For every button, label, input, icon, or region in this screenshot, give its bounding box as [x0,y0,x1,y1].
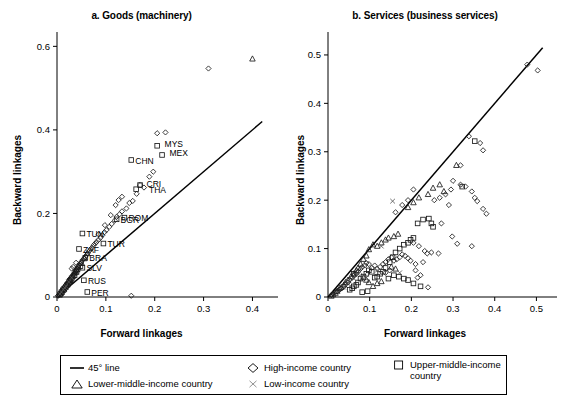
data-point-diamond [480,148,485,153]
data-point-diamond [124,206,129,211]
country-label: PER [91,288,108,298]
data-point-diamond [480,206,485,211]
country-label: ROM [128,213,148,223]
legend-label-upper-middle-income: Upper-middle-income country [410,359,510,381]
y-tick-label: 0.1 [308,243,321,254]
country-label: TUN [86,229,103,239]
country-label: MEX [169,148,188,158]
x-tick-label: 0.5 [530,303,543,314]
panel-a-x-axis-title: Forward linkages [0,328,283,339]
data-point-diamond [484,211,489,216]
data-point-triangle [425,191,431,196]
data-point-triangle [437,182,443,187]
data-point-diamond [413,268,418,273]
data-point-diamond [469,244,474,249]
panel-b-x-axis-title: Forward linkages [283,328,567,339]
data-point-square [472,139,477,144]
data-point-square [411,281,416,286]
y-tick-label: 0.2 [308,195,321,206]
data-point-diamond [450,234,455,239]
data-point-square [160,153,165,158]
data-point-diamond [416,244,421,249]
data-point-diamond [463,184,468,189]
line-icon [69,362,85,374]
data-point-diamond [446,202,451,207]
cross-icon [245,378,261,390]
data-point-diamond [119,209,124,214]
y-tick-label: 0.5 [308,49,321,60]
data-point-square [77,247,82,252]
y-tick-label: 0 [316,291,321,302]
x-tick-label: 0.1 [363,303,376,314]
panel-b-y-axis-title: Backward linkages [295,135,306,225]
data-point-diamond [439,221,444,226]
data-point-square [397,274,402,279]
legend-item-high-income: High-income country [245,362,351,374]
data-point-diamond [393,210,398,215]
data-point-diamond [113,202,118,207]
figure-container: a. Goods (machinery) Backward linkages 0… [0,0,567,401]
data-point-diamond [469,189,474,194]
x-tick-label: 0.2 [148,303,161,314]
y-tick-label: 0 [45,291,50,302]
data-point-square [386,276,391,281]
data-point-diamond [108,213,113,218]
country-label: BRA [89,253,107,263]
data-point-diamond [478,140,483,145]
legend-item-lower-middle-income: Lower-middle-income country [69,378,213,390]
data-point-diamond [411,187,416,192]
x-tick-label: 0.3 [446,303,459,314]
data-point-square [392,273,397,278]
data-point-square [421,217,426,222]
country-label: SLV [86,263,102,273]
data-point-diamond [127,200,132,205]
y-tick-label: 0.4 [37,124,50,135]
data-point-cross [390,199,395,204]
data-point-diamond [151,169,156,174]
data-point-diamond [134,191,139,196]
data-point-diamond [206,66,211,71]
country-label: TUR [107,239,124,249]
data-point-diamond [130,198,135,203]
data-point-triangle [250,56,256,61]
y-tick-label: 0.6 [37,41,50,52]
data-point-diamond [413,261,418,266]
panel-b: b. Services (business services) 00.10.20… [283,0,567,345]
data-point-square [365,289,370,294]
panel-b-plot-area: 00.10.20.30.40.500.10.20.30.40.5 [283,0,567,345]
legend-label-lower-middle-income: Lower-middle-income country [88,378,213,389]
data-point-diamond [400,202,405,207]
x-tick-label: 0 [325,303,330,314]
data-point-diamond [443,192,448,197]
triangle-icon [69,378,85,390]
data-point-triangle [430,185,436,190]
data-point-diamond [418,273,423,278]
country-label: THA [149,185,166,195]
data-point-square [360,290,365,295]
legend-item-45-line: 45° line [69,362,120,374]
data-point-diamond [437,195,442,200]
x-tick-label: 0.3 [197,303,210,314]
data-point-diamond [420,260,425,265]
data-point-triangle [416,195,422,200]
square-icon [391,359,407,371]
data-point-diamond [432,198,437,203]
data-point-diamond [455,241,460,246]
data-point-diamond [448,187,453,192]
data-point-square [427,216,432,221]
data-point-diamond [415,275,420,280]
legend-item-low-income: Low-income country [245,378,349,390]
data-point-square [101,241,106,246]
panel-a-plot-area: 00.20.40.600.10.20.30.4MYSMEXCHNCRITHABG… [0,0,283,345]
data-point-square [429,221,434,226]
x-tick-label: 0.4 [488,303,501,314]
country-label: MYS [165,139,184,149]
legend: 45° line Lower-middle-income country Hig… [60,355,507,395]
legend-item-upper-middle-income: Upper-middle-income country [391,359,510,381]
x-tick-label: 0.4 [246,303,259,314]
y-tick-label: 0.2 [37,208,50,219]
panel-a: a. Goods (machinery) Backward linkages 0… [0,0,283,345]
data-point-square [129,158,134,163]
x-tick-label: 0 [54,303,59,314]
data-point-diamond [535,68,540,73]
